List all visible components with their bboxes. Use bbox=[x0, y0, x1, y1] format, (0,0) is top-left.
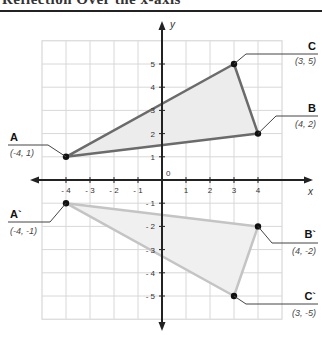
vertex-coordinate: (3, 5) bbox=[295, 56, 316, 66]
vertex-coordinate: (-4, 1) bbox=[10, 148, 34, 158]
y-tick-label: - 3 bbox=[146, 246, 156, 255]
x-axis-label: x bbox=[307, 186, 314, 197]
y-axis-up-arrow-icon bbox=[159, 21, 166, 30]
y-tick-label: - 4 bbox=[146, 269, 156, 278]
y-tick-label: 4 bbox=[151, 83, 156, 92]
x-tick-label: 1 bbox=[184, 186, 189, 195]
coordinate-plane: yx0- 4- 3- 2- 1123454321- 1- 2- 3- 4- 5A… bbox=[0, 0, 322, 339]
x-tick-label: 3 bbox=[232, 186, 237, 195]
vertex-label: C` bbox=[304, 290, 316, 302]
y-tick-label: 3 bbox=[151, 106, 156, 115]
x-tick-label: - 3 bbox=[85, 186, 95, 195]
vertex-coordinate: (4, -2) bbox=[292, 246, 316, 256]
y-tick-label: 1 bbox=[151, 153, 156, 162]
x-axis-right-arrow-icon bbox=[304, 177, 313, 184]
y-axis-label: y bbox=[169, 19, 176, 30]
x-tick-label: - 1 bbox=[133, 186, 143, 195]
y-tick-label: 5 bbox=[151, 60, 156, 69]
vertex-coordinate: (-4, -1) bbox=[10, 226, 37, 236]
x-tick-label: - 2 bbox=[109, 186, 119, 195]
vertex-label: C bbox=[308, 40, 316, 52]
vertex-coordinate: (4, 2) bbox=[295, 119, 316, 129]
vertex-label: A` bbox=[10, 208, 22, 220]
y-tick-label: - 2 bbox=[146, 222, 156, 231]
origin-label: 0 bbox=[166, 169, 171, 178]
vertex-coordinate: (3, -5) bbox=[292, 308, 316, 318]
x-tick-label: 2 bbox=[208, 186, 213, 195]
y-tick-label: - 5 bbox=[146, 292, 156, 301]
vertex-label: B bbox=[308, 102, 316, 114]
vertex-label: B` bbox=[304, 228, 316, 240]
x-tick-label: 4 bbox=[256, 186, 261, 195]
y-tick-label: 2 bbox=[151, 130, 156, 139]
vertex-label: A bbox=[10, 131, 18, 143]
x-axis-left-arrow-icon bbox=[30, 177, 39, 184]
x-tick-label: - 4 bbox=[61, 186, 71, 195]
y-axis-down-arrow-icon bbox=[159, 322, 166, 331]
y-tick-label: - 1 bbox=[146, 199, 156, 208]
